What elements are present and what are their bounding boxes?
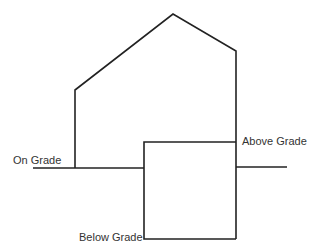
- house-outline: [75, 14, 236, 239]
- below-grade-label: Below Grade: [79, 231, 143, 243]
- grade-diagram: On Grade Above Grade Below Grade: [0, 0, 312, 250]
- basement-box: [144, 142, 236, 239]
- on-grade-label: On Grade: [13, 154, 61, 166]
- above-grade-label: Above Grade: [242, 135, 307, 147]
